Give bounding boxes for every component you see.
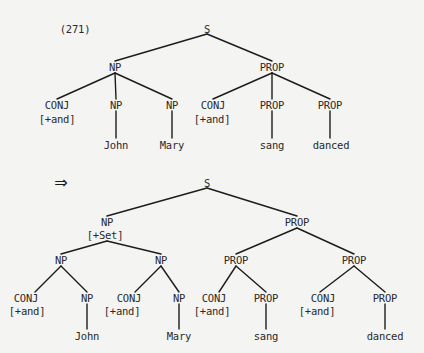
tree-node-np2: NP: [166, 100, 178, 111]
tree-node-danced: danced: [367, 331, 404, 342]
tree-node-s: S: [204, 178, 210, 189]
tree-node-conja: CONJ: [14, 293, 39, 304]
tree_after-edge: [236, 228, 297, 254]
tree-node-np: NP: [109, 62, 121, 73]
tree-node-conjaf: [+and]: [9, 306, 46, 317]
tree-node-prop: PROP: [260, 62, 285, 73]
tree-node-mary: Mary: [167, 331, 192, 342]
tree_after-edge: [320, 266, 354, 292]
tree-node-john: John: [75, 331, 100, 342]
tree_after-edge: [35, 266, 61, 292]
tree_before-edge: [213, 73, 272, 99]
tree_after-edge: [61, 241, 107, 254]
tree_after-edge: [61, 266, 87, 292]
syntax-tree-diagram: (271) ⇒ SNPPROPCONJ[+and]NPNPCONJ[+and]P…: [0, 0, 424, 353]
tree-node-prop2: PROP: [318, 100, 343, 111]
tree_after-edge: [297, 228, 354, 254]
tree-node-s: S: [204, 24, 210, 35]
tree-node-npf: [+Set]: [87, 230, 124, 241]
tree_after-edge: [107, 241, 161, 254]
tree-node-propb: PROP: [342, 255, 367, 266]
tree-node-conj1: CONJ: [45, 100, 70, 111]
tree-node-mary: Mary: [160, 140, 185, 151]
tree-node-conjd: CONJ: [311, 293, 336, 304]
tree-node-propb1: PROP: [373, 293, 398, 304]
tree_after-edge: [236, 266, 266, 292]
tree-node-propa: PROP: [224, 255, 249, 266]
tree_after-edge: [219, 266, 236, 292]
tree-node-np: NP: [101, 217, 113, 228]
tree-node-npa: NP: [55, 255, 67, 266]
tree-node-conjb: CONJ: [117, 293, 142, 304]
tree-node-sang: sang: [260, 140, 285, 151]
tree_before-edge: [272, 73, 330, 99]
tree-node-prop: PROP: [285, 217, 310, 228]
tree-node-conjbf: [+and]: [104, 306, 141, 317]
tree_before-edge: [207, 34, 272, 61]
tree-node-prop1: PROP: [260, 100, 285, 111]
tree_after-edge: [354, 266, 385, 292]
tree_before-edge: [57, 73, 115, 99]
tree-node-danced: danced: [313, 140, 350, 151]
tree_before-edge: [115, 73, 116, 99]
tree-node-sang: sang: [254, 331, 279, 342]
tree_after-edge: [207, 188, 297, 216]
tree_after-edge: [161, 266, 179, 292]
tree_after-edge: [135, 266, 161, 292]
tree_before-edge: [115, 73, 172, 99]
tree-node-conj2: CONJ: [201, 100, 226, 111]
tree-node-npb1: NP: [173, 293, 185, 304]
tree-node-np1: NP: [110, 100, 122, 111]
tree-node-npa1: NP: [81, 293, 93, 304]
tree-node-propa1: PROP: [254, 293, 279, 304]
tree-node-npb: NP: [155, 255, 167, 266]
tree-node-conjc: CONJ: [202, 293, 227, 304]
tree_before-edge: [115, 34, 207, 61]
tree-node-conj1f: [+and]: [39, 114, 76, 125]
tree-node-john: John: [104, 140, 129, 151]
tree-node-conjcf: [+and]: [194, 306, 231, 317]
tree_after-edge: [107, 188, 207, 216]
tree-node-conj2f: [+and]: [194, 114, 231, 125]
tree-node-conjdf: [+and]: [299, 306, 336, 317]
